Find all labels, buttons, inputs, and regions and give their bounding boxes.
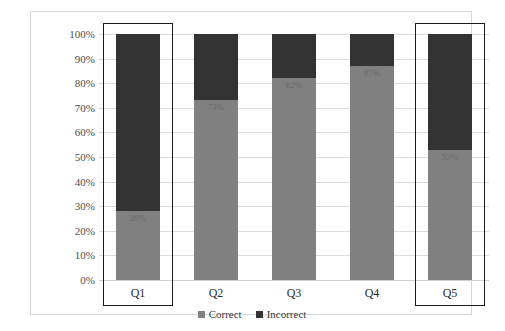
- y-axis-tick-label: 0%: [51, 275, 95, 286]
- bar-segment-correct[interactable]: 82%: [272, 78, 316, 280]
- y-axis-tick-label: 70%: [51, 102, 95, 113]
- y-axis: 0%10%20%30%40%50%60%70%80%90%100%: [47, 34, 95, 280]
- chart-legend: CorrectIncorrect: [31, 308, 473, 320]
- y-axis-tick-label: 90%: [51, 53, 95, 64]
- bar-segment-correct[interactable]: 28%: [116, 211, 160, 280]
- legend-item[interactable]: Incorrect: [256, 308, 307, 320]
- bar-column[interactable]: 53%: [428, 34, 472, 280]
- legend-item[interactable]: Correct: [198, 308, 242, 320]
- bar-data-label: 28%: [116, 214, 160, 223]
- y-axis-tick-label: 50%: [51, 152, 95, 163]
- bar-data-label: 87%: [350, 69, 394, 78]
- legend-label: Incorrect: [267, 308, 307, 320]
- chart-container: 0%10%20%30%40%50%60%70%80%90%100% 28%73%…: [30, 11, 472, 315]
- bar-segment-incorrect[interactable]: [116, 34, 160, 211]
- bar-data-label: 73%: [194, 103, 238, 112]
- x-axis-category-label: Q3: [255, 280, 333, 306]
- x-axis-category-label: Q5: [411, 280, 489, 306]
- y-axis-tick-label: 80%: [51, 78, 95, 89]
- bar-segment-correct[interactable]: 53%: [428, 150, 472, 280]
- plot-area: 28%73%82%87%53%: [99, 34, 489, 280]
- bar-segment-incorrect[interactable]: [428, 34, 472, 150]
- bar-data-label: 82%: [272, 81, 316, 90]
- bar-segment-incorrect[interactable]: [194, 34, 238, 100]
- bar-segment-incorrect[interactable]: [350, 34, 394, 66]
- bar-segment-correct[interactable]: 73%: [194, 100, 238, 280]
- legend-label: Correct: [209, 308, 242, 320]
- y-axis-tick-label: 60%: [51, 127, 95, 138]
- bar-column[interactable]: 87%: [350, 34, 394, 280]
- x-axis-category-label: Q2: [177, 280, 255, 306]
- bar-segment-correct[interactable]: 87%: [350, 66, 394, 280]
- bar-data-label: 53%: [428, 153, 472, 162]
- y-axis-tick-label: 100%: [51, 29, 95, 40]
- y-axis-tick-label: 40%: [51, 176, 95, 187]
- bar-segment-incorrect[interactable]: [272, 34, 316, 78]
- x-axis: Q1Q2Q3Q4Q5: [99, 280, 489, 306]
- x-axis-category-label: Q4: [333, 280, 411, 306]
- legend-swatch-icon: [198, 311, 205, 318]
- legend-swatch-icon: [256, 311, 263, 318]
- bar-column[interactable]: 28%: [116, 34, 160, 280]
- x-axis-category-label: Q1: [99, 280, 177, 306]
- y-axis-tick-label: 10%: [51, 250, 95, 261]
- bar-column[interactable]: 82%: [272, 34, 316, 280]
- y-axis-tick-label: 30%: [51, 201, 95, 212]
- y-axis-tick-label: 20%: [51, 225, 95, 236]
- bar-column[interactable]: 73%: [194, 34, 238, 280]
